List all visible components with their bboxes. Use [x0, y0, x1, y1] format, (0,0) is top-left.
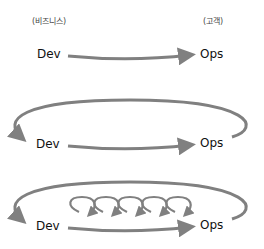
dev-label: Dev: [36, 219, 60, 233]
feedback-loop-arrow: [15, 182, 246, 220]
diagram-1-flow: [68, 55, 190, 59]
three-ways-diagram: [0, 0, 264, 249]
dev-label: Dev: [36, 137, 60, 151]
dev-to-ops-arrow: [68, 145, 190, 149]
business-label: (비즈니스): [32, 15, 66, 26]
ops-label: Ops: [200, 218, 223, 232]
dev-to-ops-arrow: [68, 227, 190, 231]
inner-loops: [70, 197, 190, 214]
ops-label: Ops: [200, 47, 223, 61]
feedback-loop-arrow: [15, 100, 246, 138]
dev-to-ops-arrow: [68, 55, 190, 59]
ops-label: Ops: [200, 136, 223, 150]
dev-label: Dev: [37, 47, 61, 61]
customer-label: (고객): [203, 15, 223, 26]
